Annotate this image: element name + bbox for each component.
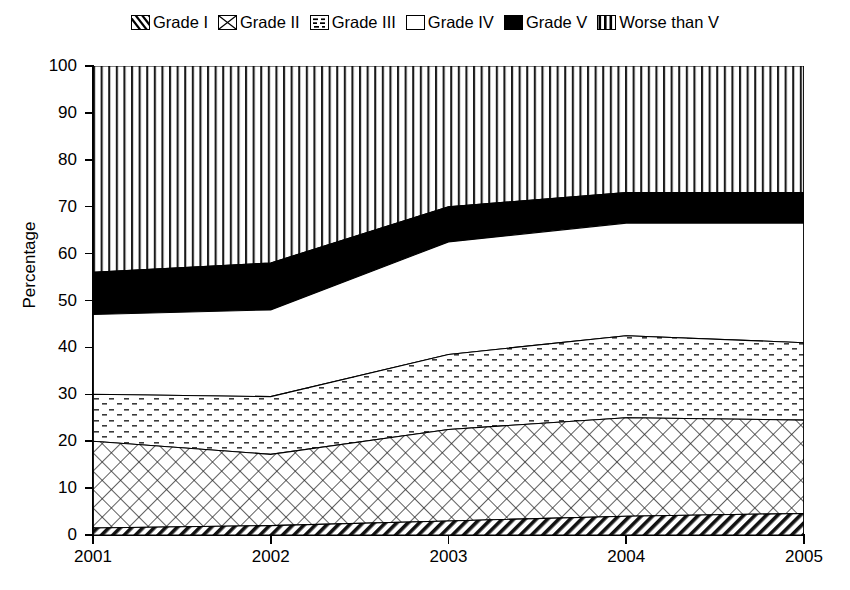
- y-tick-label: 20: [33, 432, 77, 449]
- y-tick-mark: [85, 159, 93, 161]
- vertical-lines-swatch: [597, 15, 616, 30]
- x-tick-label: 2004: [591, 548, 661, 566]
- legend-item-grade-i[interactable]: Grade I: [131, 14, 208, 30]
- plot-area: [93, 66, 804, 535]
- chart-legend: Grade IGrade IIGrade IIIGrade IVGrade VW…: [0, 14, 850, 30]
- y-tick-label: 60: [33, 245, 77, 262]
- y-tick-label: 100: [33, 57, 77, 74]
- crosshatch-diagonal-swatch: [218, 15, 237, 30]
- solid-white-swatch: [406, 15, 425, 30]
- y-tick-label: 0: [33, 526, 77, 543]
- x-tick-mark: [803, 536, 805, 544]
- legend-item-grade-iii[interactable]: Grade III: [310, 14, 396, 30]
- legend-label: Grade IV: [428, 14, 494, 30]
- y-tick-mark: [85, 112, 93, 114]
- legend-item-grade-ii[interactable]: Grade II: [218, 14, 300, 30]
- x-tick-label: 2003: [414, 548, 484, 566]
- legend-label: Grade V: [526, 14, 587, 30]
- x-tick-mark: [448, 536, 450, 544]
- y-tick-label: 40: [33, 338, 77, 355]
- legend-label: Grade II: [240, 14, 300, 30]
- area-series-svg: [93, 66, 804, 535]
- legend-item-worse-than-v[interactable]: Worse than V: [597, 14, 719, 30]
- y-tick-mark: [85, 206, 93, 208]
- legend-item-grade-v[interactable]: Grade V: [504, 14, 587, 30]
- y-tick-mark: [85, 347, 93, 349]
- x-tick-mark: [270, 536, 272, 544]
- y-tick-label: 30: [33, 385, 77, 402]
- legend-label: Grade I: [153, 14, 208, 30]
- legend-item-grade-iv[interactable]: Grade IV: [406, 14, 494, 30]
- y-tick-mark: [85, 440, 93, 442]
- y-tick-mark: [85, 253, 93, 255]
- y-tick-label: 80: [33, 151, 77, 168]
- diagonal-hatch-dense-swatch: [131, 15, 150, 30]
- y-tick-label: 50: [33, 292, 77, 309]
- stacked-area-chart: Grade IGrade IIGrade IIIGrade IVGrade VW…: [0, 0, 850, 590]
- x-tick-label: 2005: [769, 548, 839, 566]
- y-tick-mark: [85, 487, 93, 489]
- y-tick-mark: [85, 394, 93, 396]
- y-tick-mark: [85, 300, 93, 302]
- y-tick-label: 10: [33, 479, 77, 496]
- x-tick-mark: [625, 536, 627, 544]
- y-tick-mark: [85, 65, 93, 67]
- legend-label: Grade III: [332, 14, 396, 30]
- dotted-dashes-swatch: [310, 15, 329, 30]
- legend-label: Worse than V: [619, 14, 719, 30]
- x-tick-label: 2001: [58, 548, 128, 566]
- y-tick-label: 90: [33, 104, 77, 121]
- y-tick-label: 70: [33, 198, 77, 215]
- solid-black-swatch: [504, 15, 523, 30]
- x-tick-mark: [92, 536, 94, 544]
- y-axis-title: Percentage: [20, 195, 40, 335]
- x-tick-label: 2002: [236, 548, 306, 566]
